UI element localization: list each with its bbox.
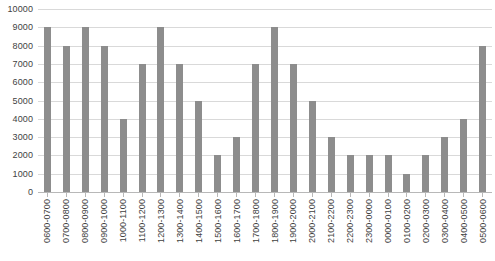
bar[interactable] — [157, 27, 164, 192]
bar[interactable] — [309, 101, 316, 193]
plot-area — [38, 9, 492, 193]
bar[interactable] — [176, 64, 183, 192]
x-label-slot: 1300-1400 — [170, 197, 189, 259]
bar[interactable] — [195, 101, 202, 193]
bar-series — [38, 9, 492, 192]
x-axis-tick-label: 1900-2000 — [289, 199, 298, 243]
bar[interactable] — [460, 119, 467, 192]
bar[interactable] — [214, 155, 221, 192]
x-axis-labels: 0600-07000700-08000800-09000900-10001000… — [38, 197, 492, 259]
bar-slot[interactable] — [208, 9, 227, 192]
bar[interactable] — [290, 64, 297, 192]
x-label-slot: 0800-0900 — [76, 197, 95, 259]
bar-slot[interactable] — [473, 9, 492, 192]
x-axis-tick-label: 0300-0400 — [440, 199, 449, 243]
bar[interactable] — [385, 155, 392, 192]
y-axis-tick-label: 5000 — [13, 96, 33, 105]
bar[interactable] — [101, 46, 108, 192]
bar[interactable] — [44, 27, 51, 192]
x-axis-tick-label: 2200-2300 — [346, 199, 355, 243]
bar-slot[interactable] — [284, 9, 303, 192]
x-axis-tick-label: 1700-1800 — [251, 199, 260, 243]
x-axis-tick-label: 0600-0700 — [43, 199, 52, 243]
bar-slot[interactable] — [76, 9, 95, 192]
x-label-slot: 1900-2000 — [284, 197, 303, 259]
bar-slot[interactable] — [246, 9, 265, 192]
x-label-slot: 0700-0800 — [57, 197, 76, 259]
x-label-slot: 0500-0600 — [473, 197, 492, 259]
x-label-slot: 0100-0200 — [398, 197, 417, 259]
x-label-slot: 2000-2100 — [303, 197, 322, 259]
x-axis-tick-label: 0900-1000 — [100, 199, 109, 243]
chart-title-cropped — [0, 0, 495, 7]
bar-slot[interactable] — [398, 9, 417, 192]
x-label-slot: 0600-0700 — [38, 197, 57, 259]
x-axis-tick-label: 0000-0100 — [384, 199, 393, 243]
bar-slot[interactable] — [265, 9, 284, 192]
x-axis-tick-label: 0700-0800 — [62, 199, 71, 243]
bar-slot[interactable] — [322, 9, 341, 192]
bar-slot[interactable] — [189, 9, 208, 192]
bar[interactable] — [120, 119, 127, 192]
y-axis-tick-label: 1000 — [13, 169, 33, 178]
bar[interactable] — [403, 174, 410, 192]
x-axis-tick-label: 1500-1600 — [213, 199, 222, 243]
x-label-slot: 1400-1500 — [189, 197, 208, 259]
x-axis-tick-label: 0200-0300 — [421, 199, 430, 243]
bar-slot[interactable] — [227, 9, 246, 192]
y-axis-tick-label: 9000 — [13, 23, 33, 32]
x-label-slot: 1100-1200 — [133, 197, 152, 259]
x-label-slot: 0900-1000 — [95, 197, 114, 259]
bar[interactable] — [422, 155, 429, 192]
bar[interactable] — [63, 46, 70, 192]
bar-slot[interactable] — [152, 9, 171, 192]
bar[interactable] — [347, 155, 354, 192]
x-axis-tick-label: 1800-1900 — [270, 199, 279, 243]
bar[interactable] — [328, 137, 335, 192]
y-axis-tick-label: 3000 — [13, 133, 33, 142]
y-axis-tick-label: 7000 — [13, 59, 33, 68]
y-axis: 1000090008000700060005000400030002000100… — [0, 9, 36, 193]
bar-slot[interactable] — [379, 9, 398, 192]
bar-slot[interactable] — [133, 9, 152, 192]
bar[interactable] — [441, 137, 448, 192]
bar-slot[interactable] — [454, 9, 473, 192]
x-axis-tick-label: 1600-1700 — [232, 199, 241, 243]
x-label-slot: 0000-0100 — [379, 197, 398, 259]
y-axis-tick-label: 0 — [28, 188, 33, 197]
bar-slot[interactable] — [360, 9, 379, 192]
bar-slot[interactable] — [57, 9, 76, 192]
x-axis-tick-label: 2100-2200 — [327, 199, 336, 243]
y-axis-tick-label: 6000 — [13, 78, 33, 87]
bar-slot[interactable] — [38, 9, 57, 192]
bar[interactable] — [252, 64, 259, 192]
bar[interactable] — [82, 27, 89, 192]
x-label-slot: 0400-0500 — [454, 197, 473, 259]
bar-slot[interactable] — [303, 9, 322, 192]
x-label-slot: 0300-0400 — [435, 197, 454, 259]
bar-slot[interactable] — [114, 9, 133, 192]
bar-slot[interactable] — [95, 9, 114, 192]
x-axis-tick-label: 1000-1100 — [119, 199, 128, 242]
x-label-slot: 2300-0000 — [360, 197, 379, 259]
bar-slot[interactable] — [341, 9, 360, 192]
x-label-slot: 1800-1900 — [265, 197, 284, 259]
x-axis-tick-label: 0400-0500 — [459, 199, 468, 243]
x-label-slot: 1700-1800 — [246, 197, 265, 259]
x-label-slot: 1500-1600 — [208, 197, 227, 259]
x-axis-tick-label: 1400-1500 — [194, 199, 203, 243]
x-label-slot: 0200-0300 — [416, 197, 435, 259]
bar-slot[interactable] — [435, 9, 454, 192]
y-axis-tick-label: 10000 — [7, 5, 33, 14]
bar[interactable] — [233, 137, 240, 192]
bar[interactable] — [479, 46, 486, 192]
bar[interactable] — [139, 64, 146, 192]
bar-chart: 1000090008000700060005000400030002000100… — [0, 0, 495, 261]
y-axis-tick-label: 2000 — [13, 151, 33, 160]
bar-slot[interactable] — [170, 9, 189, 192]
x-axis-tick-label: 0100-0200 — [402, 199, 411, 243]
bar[interactable] — [271, 27, 278, 192]
bar[interactable] — [366, 155, 373, 192]
x-label-slot: 1600-1700 — [227, 197, 246, 259]
bar-slot[interactable] — [416, 9, 435, 192]
